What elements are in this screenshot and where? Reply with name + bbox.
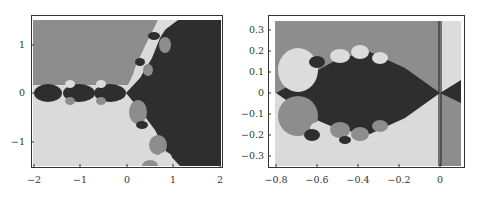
y-tick-label: −0.3 <box>241 150 264 161</box>
y-tick-label: 0.1 <box>249 66 264 77</box>
right-fractal <box>275 21 461 166</box>
x-tick-label: −1 <box>73 174 87 185</box>
left-chart: −2 −1 0 1 2 1 0 −1 <box>0 0 240 201</box>
x-tick-label: −0.8 <box>264 174 287 185</box>
x-tick-label: 0 <box>124 174 130 185</box>
y-tick-label: 1 <box>19 39 25 50</box>
y-tick-label: −0.1 <box>241 108 264 119</box>
x-tick-label: 1 <box>170 174 176 185</box>
y-tick-label: 0.2 <box>249 45 264 56</box>
x-tick-label: −0.6 <box>305 174 328 185</box>
left-fractal <box>33 20 221 172</box>
x-tick-label: −0.2 <box>387 174 410 185</box>
x-tick-label: −2 <box>27 174 41 185</box>
x-tick-label: 2 <box>217 174 223 185</box>
y-tick-label: 0 <box>19 87 25 98</box>
left-chart-plot: −2 −1 0 1 2 1 0 −1 <box>0 0 240 201</box>
y-tick-label: 0 <box>258 87 264 98</box>
right-chart: −0.8 −0.6 −0.4 −0.2 0 0.3 0.2 0.1 0 −0.1… <box>240 0 481 201</box>
y-tick-label: −0.2 <box>241 129 264 140</box>
y-tick-label: −1 <box>11 136 25 147</box>
x-tick-label: −0.4 <box>346 174 369 185</box>
right-chart-plot: −0.8 −0.6 −0.4 −0.2 0 0.3 0.2 0.1 0 −0.1… <box>240 0 481 201</box>
x-tick-label: 0 <box>437 174 443 185</box>
y-tick-label: 0.3 <box>249 24 264 35</box>
